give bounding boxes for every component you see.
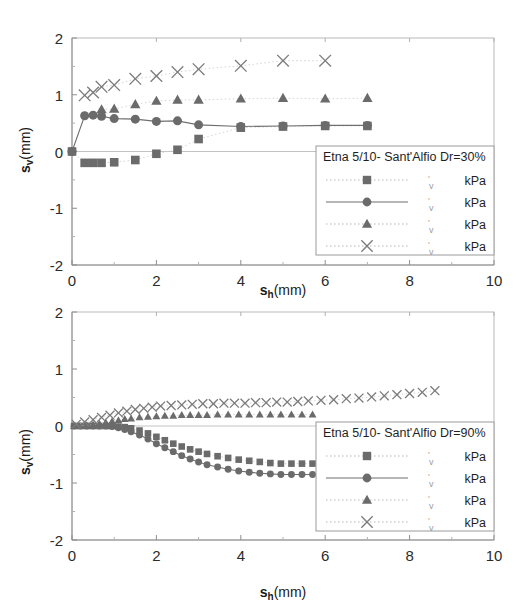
chart-panel-top: 0246810210-1-2 sv(mm) sh(mm) Etna 5/10- … (0, 0, 531, 305)
x-tick-label: 6 (321, 272, 329, 289)
data-point-triangle (195, 411, 203, 418)
data-point-triangle (277, 411, 285, 418)
x-tick-label: 8 (405, 272, 413, 289)
data-point-cross (430, 386, 439, 395)
data-point-circle (178, 452, 185, 459)
data-point-circle (195, 458, 202, 465)
legend-marker-square (363, 452, 371, 460)
y-axis-title-unit-bottom: (mm) (17, 429, 33, 462)
data-point-circle (89, 111, 98, 120)
data-point-cross (122, 407, 131, 416)
y-tick-label: 0 (55, 144, 63, 161)
data-point-square (89, 159, 98, 168)
data-point-circle (67, 147, 76, 156)
legend-value-sub: v (429, 523, 434, 533)
data-point-cross (87, 87, 99, 99)
legend-marker-circle (363, 474, 372, 483)
data-point-circle (225, 466, 232, 473)
data-point-triangle (235, 411, 243, 418)
data-point-square (178, 443, 185, 450)
data-point-circle (128, 428, 135, 435)
legend-unit-label: kPa (464, 472, 486, 486)
data-point-triangle (130, 99, 140, 108)
legend-unit-label: kPa (464, 450, 486, 464)
data-point-circle (235, 468, 242, 475)
data-point-square (162, 437, 169, 444)
data-point-cross (380, 391, 389, 400)
data-point-triangle (186, 411, 194, 418)
y-tick-label: -1 (50, 200, 63, 217)
data-point-square (110, 158, 119, 167)
y-tick-label: 2 (55, 30, 63, 47)
y-axis-title-unit-top: (mm) (17, 127, 33, 160)
data-point-triangle (114, 416, 122, 423)
data-point-triangle (172, 95, 182, 104)
data-point-circle (187, 456, 194, 463)
legend-value-sub: v (429, 457, 434, 467)
data-point-square (153, 434, 160, 441)
data-point-square (288, 460, 295, 467)
data-point-triangle (256, 411, 264, 418)
legend-value-sub: v (429, 247, 434, 257)
data-point-circle (246, 469, 253, 476)
data-point-triangle (298, 411, 306, 418)
data-point-triangle (278, 93, 288, 102)
series-cross (79, 55, 331, 101)
x-axis-title-bottom: sh(mm) (260, 584, 307, 602)
legend-unit-label: kPa (464, 196, 486, 210)
legend-value-sub: v (429, 181, 434, 191)
data-point-square (194, 135, 203, 144)
y-tick-label: -2 (50, 257, 63, 274)
legend-bottom: Etna 5/10- Sant'Alfio Dr=90%'vkPa'vkPa'v… (316, 422, 494, 533)
data-point-circle (115, 424, 122, 431)
x-axis-title-unit-bottom: (mm) (274, 584, 307, 600)
data-point-triangle (266, 411, 274, 418)
data-point-circle (161, 444, 168, 451)
data-point-circle (214, 464, 221, 471)
data-point-square (278, 460, 285, 467)
data-point-triangle (193, 95, 203, 104)
y-tick-label: -1 (50, 475, 63, 492)
figure-container: 0246810210-1-2 sv(mm) sh(mm) Etna 5/10- … (0, 0, 531, 613)
data-point-cross (106, 411, 115, 420)
data-point-circle (131, 115, 140, 124)
legend-unit-label: kPa (464, 218, 486, 232)
y-tick-label: 0 (55, 418, 63, 435)
data-point-triangle (362, 93, 372, 102)
legend-unit-label: kPa (464, 174, 486, 188)
x-tick-label: 10 (486, 547, 503, 564)
x-tick-label: 0 (68, 547, 76, 564)
data-point-cross (96, 81, 108, 93)
data-point-circle (288, 471, 295, 478)
data-point-circle (256, 470, 263, 477)
data-point-square (173, 145, 182, 154)
y-axis-title-top: sv(mm) (17, 127, 35, 173)
y-axis-title-bottom: sv(mm) (17, 429, 35, 475)
data-point-cross (129, 73, 141, 85)
data-point-circle (309, 471, 316, 478)
legend-value-sub: v (429, 225, 434, 235)
x-tick-label: 6 (321, 547, 329, 564)
legend-value-sub: v (429, 203, 434, 213)
data-point-cross (277, 55, 289, 67)
data-point-circle (153, 440, 160, 447)
data-point-circle (121, 426, 128, 433)
data-point-triangle (161, 412, 169, 419)
data-point-circle (152, 117, 161, 126)
data-point-cross (151, 70, 163, 82)
legend-value-sub: v (429, 501, 434, 511)
data-point-square (195, 448, 202, 455)
y-tick-label: 2 (55, 304, 63, 321)
data-point-triangle (236, 93, 246, 102)
legend-unit-label: kPa (464, 240, 486, 254)
data-point-triangle (214, 411, 222, 418)
data-point-circle (204, 461, 211, 468)
data-point-square (267, 460, 274, 467)
data-point-square (97, 159, 106, 168)
y-tick-label: -2 (50, 532, 63, 549)
data-point-cross (114, 408, 123, 417)
data-point-triangle (224, 411, 232, 418)
data-point-circle (170, 448, 177, 455)
x-tick-label: 4 (237, 547, 245, 564)
data-point-triangle (178, 411, 186, 418)
